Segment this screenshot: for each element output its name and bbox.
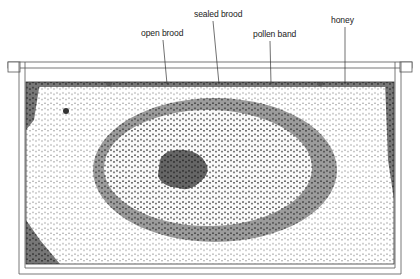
label-sealed-brood: sealed brood: [194, 8, 242, 19]
honeycomb-frame-diagram: [0, 0, 420, 279]
comb: [26, 80, 394, 264]
label-honey: honey: [331, 14, 354, 25]
pollen-band-leader: [270, 41, 271, 84]
label-open-brood: open brood: [141, 27, 183, 38]
label-pollen-band: pollen band: [253, 28, 296, 39]
sealed-brood-leader: [213, 21, 219, 84]
sealed-brood-zone: [104, 110, 312, 226]
